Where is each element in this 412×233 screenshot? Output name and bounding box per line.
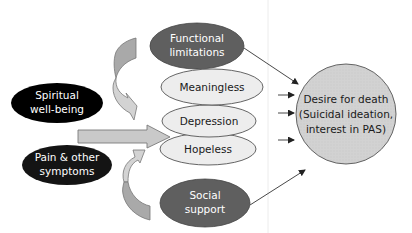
node-functional-line2: limitations bbox=[169, 46, 224, 58]
node-depression-label: Depression bbox=[180, 115, 239, 127]
node-pain-line1: Pain & other bbox=[35, 151, 100, 163]
node-functional-line1: Functional bbox=[170, 32, 224, 44]
curved-arrow-lower bbox=[123, 150, 150, 220]
node-spiritual-line2: well-being bbox=[30, 103, 84, 115]
node-desire-for-death: Desire for death (Suicidal ideation, int… bbox=[296, 64, 396, 164]
node-social-line2: support bbox=[185, 203, 225, 215]
node-depression: Depression bbox=[162, 105, 256, 137]
curved-arrow-upper bbox=[113, 38, 137, 120]
block-arrow-main bbox=[78, 125, 170, 148]
node-social-support: Social support bbox=[160, 179, 250, 227]
node-social-line1: Social bbox=[189, 189, 220, 201]
arrow-social-to-outcome bbox=[250, 170, 305, 205]
diagram-canvas: Spiritual well-being Pain & other sympto… bbox=[0, 0, 412, 233]
node-pain-symptoms: Pain & other symptoms bbox=[22, 145, 112, 185]
node-meaningless-label: Meaningless bbox=[179, 81, 244, 93]
node-meaningless: Meaningless bbox=[161, 69, 263, 105]
node-pain-line2: symptoms bbox=[40, 165, 95, 177]
node-hopeless: Hopeless bbox=[160, 133, 256, 165]
node-spiritual-well-being: Spiritual well-being bbox=[11, 83, 103, 123]
node-spiritual-line1: Spiritual bbox=[35, 89, 79, 101]
node-outcome-line1: Desire for death bbox=[304, 93, 389, 105]
node-hopeless-label: Hopeless bbox=[184, 143, 232, 155]
node-functional-limitations: Functional limitations bbox=[150, 23, 244, 69]
node-outcome-line2: (Suicidal ideation, bbox=[299, 108, 393, 120]
node-outcome-line3: interest in PAS) bbox=[306, 123, 386, 135]
